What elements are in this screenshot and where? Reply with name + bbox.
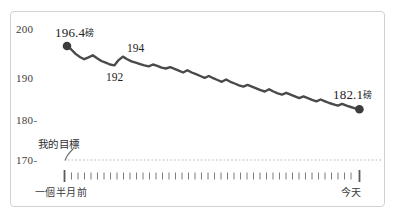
- end-value-unit: 磅: [363, 90, 372, 100]
- x-axis-ticks: [65, 170, 360, 182]
- y-axis-170-value: 170: [16, 154, 33, 166]
- goal-label: 我的目標: [38, 136, 80, 151]
- chart-card: 200 190 180- 170- 196.4磅 182.1磅 192 194 …: [10, 11, 385, 207]
- end-value-number: 182.1: [333, 87, 363, 102]
- y-axis-170-dash: -: [33, 154, 37, 166]
- y-axis-label-180: 180-: [16, 114, 37, 126]
- y-axis-label-170: 170-: [16, 154, 37, 166]
- x-axis-end-label: 今天: [341, 184, 362, 199]
- y-axis-label-190: 190: [16, 72, 33, 84]
- y-axis-180-dash: -: [33, 114, 37, 126]
- start-data-point: [63, 42, 72, 51]
- y-axis-180-value: 180: [16, 114, 33, 126]
- weight-trend-chart: [11, 12, 386, 208]
- start-value-unit: 磅: [85, 28, 94, 38]
- start-value-number: 196.4: [55, 25, 85, 40]
- end-data-point: [355, 105, 364, 114]
- inline-label-192: 192: [106, 71, 123, 83]
- start-value-label: 196.4磅: [55, 25, 94, 41]
- inline-label-194: 194: [127, 42, 144, 54]
- x-axis-start-label: 一個半月前: [35, 184, 87, 199]
- end-value-label: 182.1磅: [333, 87, 372, 103]
- y-axis-label-200: 200: [16, 23, 33, 35]
